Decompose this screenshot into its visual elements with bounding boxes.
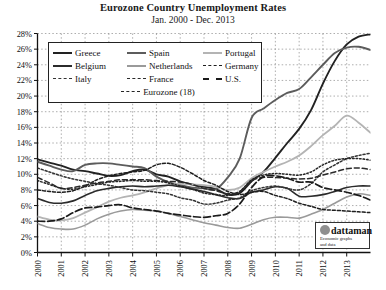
legend-item-label: U.S. (225, 74, 241, 84)
legend-item-eurozone-18[interactable]: Eurozone (18) (53, 85, 263, 98)
svg-text:2011: 2011 (295, 260, 304, 276)
legend-item-label: Greece (75, 48, 100, 58)
legend-item-label: Spain (149, 48, 170, 58)
svg-text:2010: 2010 (272, 260, 281, 277)
svg-text:10%: 10% (17, 170, 32, 179)
svg-text:22%: 22% (17, 76, 32, 85)
svg-text:26%: 26% (17, 45, 32, 54)
legend-item-label: Eurozone (18) (143, 87, 195, 97)
legend-swatch-icon (127, 52, 146, 54)
svg-text:2009: 2009 (248, 260, 257, 277)
svg-text:28%: 28% (17, 30, 32, 39)
svg-text:2005: 2005 (153, 260, 162, 277)
legend-item-label: Portugal (225, 48, 256, 58)
logo-wordmark: dattaman (323, 225, 372, 236)
legend-swatch-icon (127, 78, 146, 79)
svg-text:2008: 2008 (224, 260, 233, 277)
chart-container: Eurozone Country Unemployment Rates Jan.… (0, 0, 386, 290)
legend-swatch-icon (121, 91, 140, 92)
logo-main-row: dattaman (319, 224, 367, 236)
legend-item-label: France (149, 74, 174, 84)
svg-text:0%: 0% (21, 249, 32, 258)
svg-text:16%: 16% (17, 123, 32, 132)
svg-text:2000: 2000 (34, 260, 43, 277)
legend-item-portugal[interactable]: Portugal (203, 46, 263, 59)
legend-item-france[interactable]: France (127, 72, 203, 85)
legend-swatch-icon (53, 65, 72, 67)
legend-item-label: Italy (75, 74, 92, 84)
svg-text:2004: 2004 (129, 259, 138, 277)
svg-text:2002: 2002 (81, 260, 90, 277)
svg-text:2003: 2003 (105, 260, 114, 277)
legend-swatch-icon (53, 78, 72, 79)
dattaman-watermark: dattaman Economic graphs and data (315, 222, 370, 249)
legend-item-netherlands[interactable]: Netherlands (127, 59, 203, 72)
legend-item-spain[interactable]: Spain (127, 46, 203, 59)
legend-item-u-s[interactable]: U.S. (203, 72, 263, 85)
legend-item-germany[interactable]: Germany (203, 59, 263, 72)
svg-text:8%: 8% (21, 186, 32, 195)
svg-text:24%: 24% (17, 61, 32, 70)
svg-text:20%: 20% (17, 92, 32, 101)
svg-text:2012: 2012 (319, 260, 328, 277)
x-axis-ticks: 2000200120022003200420052006200720082009… (34, 253, 352, 277)
svg-text:12%: 12% (17, 155, 32, 164)
svg-text:4%: 4% (21, 217, 32, 226)
legend-swatch-icon (127, 65, 146, 67)
svg-text:6%: 6% (21, 202, 32, 211)
svg-text:18%: 18% (17, 108, 32, 117)
legend-swatch-icon (53, 52, 72, 54)
logo-tagline-line2: and data (319, 242, 367, 247)
svg-text:2006: 2006 (176, 260, 185, 277)
svg-text:14%: 14% (17, 139, 32, 148)
legend-item-belgium[interactable]: Belgium (53, 59, 127, 72)
legend-item-label: Belgium (75, 61, 106, 71)
legend-item-italy[interactable]: Italy (53, 72, 127, 85)
legend-item-label: Germany (225, 61, 259, 71)
chart-legend: GreeceSpainPortugalBelgiumNetherlandsGer… (48, 42, 262, 103)
svg-text:2001: 2001 (57, 260, 66, 277)
y-axis-ticks: 0%2%4%6%8%10%12%14%16%18%20%22%24%26%28% (17, 30, 38, 258)
svg-text:2013: 2013 (343, 260, 352, 277)
legend-grid: GreeceSpainPortugalBelgiumNetherlandsGer… (53, 46, 257, 98)
svg-text:2%: 2% (21, 233, 32, 242)
legend-item-label: Netherlands (149, 61, 192, 71)
svg-text:2007: 2007 (200, 260, 209, 277)
legend-swatch-icon (203, 78, 222, 80)
legend-swatch-icon (203, 65, 222, 66)
legend-swatch-icon (203, 52, 222, 54)
legend-item-greece[interactable]: Greece (53, 46, 127, 59)
